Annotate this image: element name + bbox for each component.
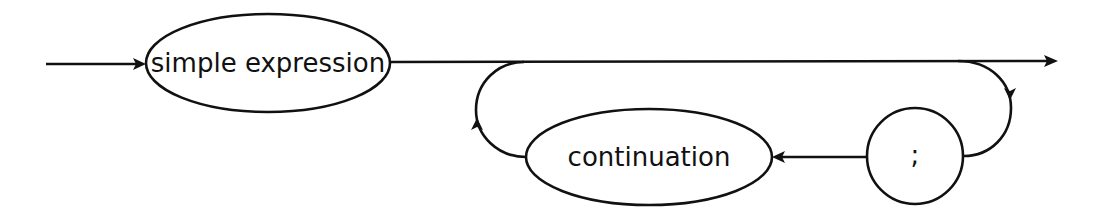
- node-semicolon: ;: [867, 108, 963, 204]
- loop-up-path: [476, 62, 526, 157]
- semicolon-label: ;: [911, 140, 920, 170]
- loop-down-arrow-icon: [1004, 88, 1016, 100]
- simple-expression-label: simple expression: [151, 48, 385, 78]
- syntax-diagram: simple expression ; continuation: [0, 0, 1100, 220]
- continuation-label: continuation: [568, 142, 731, 172]
- node-continuation: continuation: [526, 109, 772, 205]
- node-simple-expression: simple expression: [146, 14, 390, 112]
- loop-up-arrow-icon: [471, 118, 483, 130]
- main-line: [390, 61, 1050, 62]
- loop-down-path: [958, 61, 1011, 156]
